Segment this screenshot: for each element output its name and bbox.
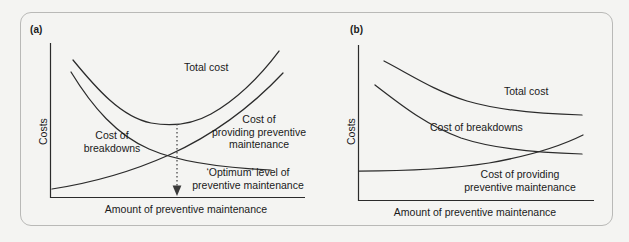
panel-a: (a) Costs Total cost Cost of breakdowns … [21,13,321,227]
panel-a-label-total-cost: Total cost [184,61,228,74]
panel-b: (b) Costs Total cost Cost of breakdowns … [321,13,614,227]
panel-b-label-cost-of-breakdowns: Cost of breakdowns [430,121,523,134]
panel-a-label-cost-of-breakdowns: Cost of breakdowns [66,129,158,154]
figure-frame: (a) Costs Total cost Cost of breakdowns … [20,12,613,226]
figure-root: (a) Costs Total cost Cost of breakdowns … [0,0,629,242]
panel-a-x-axis-label: Amount of preventive maintenance [61,203,311,215]
panel-b-label-total-cost: Total cost [504,85,548,98]
panel-b-plot [321,13,614,227]
panel-a-label-optimum: ‘Optimum’ level of preventive maintenanc… [181,166,315,191]
panel-b-curve-cost-of-breakdowns [375,85,582,154]
panel-b-x-axis-label: Amount of preventive maintenance [354,206,596,218]
panel-b-curve-total-cost [384,61,582,115]
panel-b-label-cost-of-providing: Cost of providing preventive maintenance [446,168,594,193]
panel-a-label-cost-of-providing: Cost of providing preventive maintenance [202,113,316,151]
